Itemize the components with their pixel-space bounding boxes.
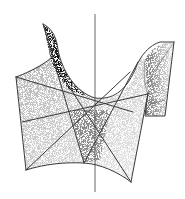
surface-figure: [0, 0, 185, 199]
surface-diagram: [0, 0, 185, 199]
